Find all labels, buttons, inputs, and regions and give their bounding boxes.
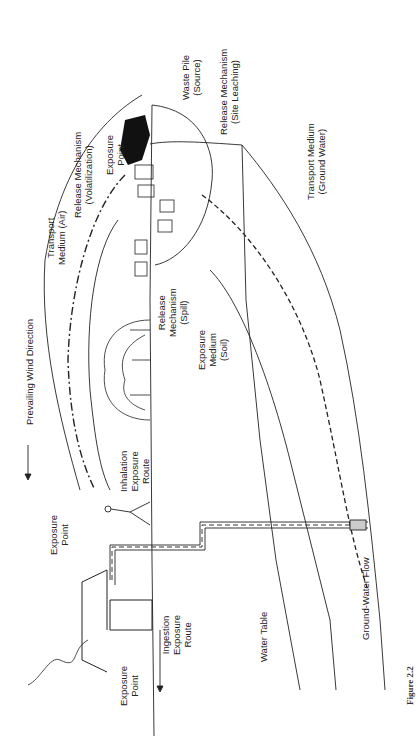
figure-caption: Figure 2.2 [405,666,415,705]
label-groundwater-flow: Ground-Water Flow [360,557,371,640]
waste-pile-dome [152,105,212,265]
air-plume-inner [89,220,118,490]
leachate-path [202,195,368,590]
person-walking-icon [105,502,150,525]
label-transport-air: TransportMedium (Air) [45,211,67,265]
label-release-leaching: Release Mechanism(Site Leaching) [218,49,240,135]
label-release-spill: ReleaseMechanism(Spill) [156,288,189,337]
label-transport-groundwater: Transport Medium(Ground Water) [305,123,327,200]
label-exposure-point-pile: ExposurePoint [104,135,126,175]
water-table-line [242,145,300,690]
well-pipe [110,522,368,580]
label-water-table: Water Table [258,612,269,662]
label-inhalation-route: InhalationExposureRoute [118,451,151,492]
label-exposure-point-house: ExposurePoint [118,666,140,706]
label-ingestion-route: IngestionExposureRoute [160,615,193,655]
tree-cluster-icon [104,320,150,420]
label-waste-pile: Waste Pile(Source) [180,55,202,100]
label-prevailing-wind: Prevailing Wind Direction [24,319,35,425]
label-exposure-point-walker: ExposurePoint [48,515,70,555]
label-exposure-medium-soil: ExposureMedium(Soil) [196,330,229,370]
label-release-volatilization: Release Mechanism(Volatilization) [72,132,94,218]
ground-surface-line [150,105,154,736]
